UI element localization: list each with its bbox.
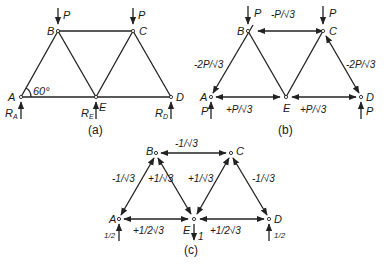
node-label-D: D — [274, 213, 282, 225]
load-label-E: 1 — [198, 231, 204, 242]
load-label-B: P — [63, 9, 71, 21]
force-label-BC: -P/√3 — [271, 9, 295, 20]
reaction-label-D: RD — [155, 107, 168, 120]
force-label-BC: -1/√3 — [175, 138, 198, 149]
member-BE — [248, 31, 286, 97]
force-label-AB: -2P/√3 — [194, 59, 224, 70]
node-D — [169, 95, 172, 98]
node-label-C: C — [139, 25, 147, 37]
load-label-C: P — [329, 7, 337, 19]
node-label-B: B — [47, 25, 54, 37]
reaction-label-E: RE — [81, 107, 94, 120]
member-EC — [286, 31, 323, 97]
member-EC — [96, 31, 133, 97]
reaction-label-D: 1/2 — [274, 231, 286, 240]
load-label-C: P — [138, 9, 146, 21]
node-label-E: E — [183, 224, 191, 236]
node-C — [321, 29, 324, 32]
node-label-C: C — [236, 145, 244, 157]
truss-members-c — [121, 153, 267, 219]
caption-c: (c) — [184, 243, 198, 257]
truss-members-b — [213, 25, 359, 97]
member-CD — [233, 158, 267, 215]
panel-c: A B C E D 1 1/2 1/2 -1/√3 -1/√3 +1/√3 +1… — [104, 138, 286, 257]
node-label-E: E — [99, 101, 107, 113]
node-B — [154, 151, 157, 154]
node-E — [192, 217, 195, 220]
reaction-label-A: 1/2 — [104, 231, 116, 240]
panel-b: A B C E D P P P P -P/√3 -2P/√3 -2P/√3 +P… — [194, 6, 376, 137]
force-label-CD: -2P/√3 — [346, 59, 376, 70]
force-label-CD: -1/√3 — [252, 173, 275, 184]
reaction-label-D: P — [366, 105, 374, 117]
node-label-A: A — [7, 91, 15, 103]
member-EC — [197, 158, 229, 214]
force-label-AE: +1/2√3 — [133, 225, 164, 236]
angle-label: 60° — [33, 85, 50, 97]
node-A — [19, 95, 22, 98]
node-label-A: A — [199, 91, 207, 103]
force-label-ED: +1/2√3 — [210, 225, 241, 236]
member-BE — [158, 158, 191, 214]
force-label-ED: +P/√3 — [300, 104, 327, 115]
force-label-AE: +P/√3 — [226, 104, 253, 115]
caption-a: (a) — [88, 123, 103, 137]
node-E — [284, 95, 287, 98]
load-label-B: P — [254, 7, 262, 19]
node-B — [246, 29, 249, 32]
force-label-BE: +1/√3 — [148, 173, 174, 184]
angle-arc — [26, 88, 31, 97]
caption-b: (b) — [278, 123, 293, 137]
node-C — [229, 151, 232, 154]
node-A — [209, 95, 212, 98]
member-BE — [58, 31, 96, 97]
node-label-D: D — [366, 91, 374, 103]
node-B — [56, 29, 59, 32]
node-label-A: A — [108, 213, 116, 225]
node-D — [267, 217, 270, 220]
reaction-label-A: P — [201, 105, 209, 117]
node-label-B: B — [237, 25, 244, 37]
node-A — [117, 217, 120, 220]
reaction-label-A: RA — [5, 107, 18, 120]
node-C — [131, 29, 134, 32]
force-label-AB: -1/√3 — [112, 173, 135, 184]
node-D — [359, 95, 362, 98]
member-AB — [121, 158, 154, 215]
node-label-E: E — [283, 102, 291, 114]
node-label-C: C — [329, 25, 337, 37]
node-label-B: B — [146, 145, 153, 157]
force-label-CE: +1/√3 — [188, 173, 214, 184]
member-CD — [133, 31, 171, 97]
node-E — [94, 95, 97, 98]
truss-figure: 60° A B C E D P P RA RE RD (a) — [0, 0, 384, 265]
panel-a: 60° A B C E D P P RA RE RD (a) — [5, 8, 184, 137]
node-label-D: D — [176, 91, 184, 103]
